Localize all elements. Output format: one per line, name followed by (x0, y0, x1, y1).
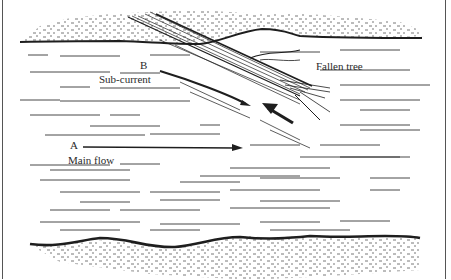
label-fallen-tree: Fallen tree (316, 60, 363, 72)
sub-current-arrow (160, 71, 251, 118)
river-diagram (0, 0, 451, 280)
label-sub-current: Sub-current (99, 73, 151, 85)
label-point-b: B (140, 59, 147, 71)
eddy-arrow (260, 103, 310, 148)
lower-bank (30, 236, 420, 280)
label-main-flow: Main flow (68, 154, 114, 166)
main-flow-arrow (83, 144, 243, 151)
upper-bank (20, 10, 426, 44)
flow-lines (20, 50, 430, 230)
label-point-a: A (70, 139, 78, 151)
